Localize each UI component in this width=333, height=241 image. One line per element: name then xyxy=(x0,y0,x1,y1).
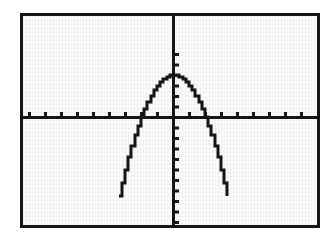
x-axis-tick-marks xyxy=(30,112,302,116)
graph-plot-area xyxy=(23,16,317,225)
y-axis-tick-marks xyxy=(175,55,179,223)
figure-page xyxy=(0,0,333,241)
calculator-screen xyxy=(20,13,320,228)
